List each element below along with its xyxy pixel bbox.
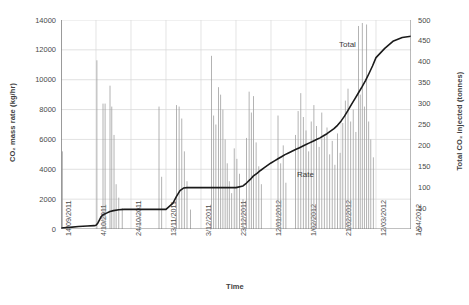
tick-label: 250	[418, 120, 458, 129]
tick-label: 14000	[16, 16, 56, 25]
rate-annotation: Rate	[297, 170, 314, 179]
rate-series	[62, 20, 374, 229]
y-axis-right-tick: 250	[418, 120, 460, 129]
y-axis-left-tick: 14000	[14, 16, 56, 25]
tick-label: 350	[418, 78, 458, 87]
y-axis-right-tick: 300	[418, 99, 460, 108]
tick-label: 300	[418, 99, 458, 108]
y-axis-right-tick: 0	[418, 225, 460, 234]
y-axis-left-tick: 6000	[14, 135, 56, 144]
y-axis-left-tick: 0	[14, 225, 56, 234]
chart-container: CO₂ mass rate (kg/hr) Total CO₂ injected…	[0, 0, 469, 305]
tick-label: 8000	[16, 105, 56, 114]
y-axis-right-tick: 150	[418, 162, 460, 171]
tick-label: 6000	[16, 135, 56, 144]
tick-label: 0	[418, 225, 458, 234]
y-axis-right-tick: 500	[418, 16, 460, 25]
y-axis-left-tick: 4000	[14, 165, 56, 174]
y-axis-right-tick: 100	[418, 183, 460, 192]
tick-label: 10000	[16, 75, 56, 84]
tick-label: 0	[16, 225, 56, 234]
tick-label: 2000	[16, 195, 56, 204]
tick-label: 150	[418, 162, 458, 171]
tick-label: 400	[418, 57, 458, 66]
y-axis-left-tick: 8000	[14, 105, 56, 114]
plot-area	[61, 20, 411, 229]
x-axis-title: Time	[180, 282, 290, 291]
total-annotation: Total	[339, 40, 356, 49]
y-axis-right-tick: 200	[418, 141, 460, 150]
y-axis-right-tick: 450	[418, 36, 460, 45]
tick-label: 50	[418, 204, 458, 213]
tick-label: 450	[418, 36, 458, 45]
tick-label: 4000	[16, 165, 56, 174]
y-axis-left-tick: 2000	[14, 195, 56, 204]
y-axis-right-tick: 400	[418, 57, 460, 66]
tick-label: 200	[418, 141, 458, 150]
tick-label: 100	[418, 183, 458, 192]
y-axis-right-tick: 50	[418, 204, 460, 213]
tick-label: 500	[418, 16, 458, 25]
chart-svg	[61, 20, 411, 229]
y-axis-left-tick: 12000	[14, 45, 56, 54]
y-axis-right-tick: 350	[418, 78, 460, 87]
y-axis-left-title: CO₂ mass rate (kg/hr)	[8, 75, 17, 171]
tick-label: 12000	[16, 45, 56, 54]
y-axis-left-tick: 10000	[14, 75, 56, 84]
x-axis-tick-label: 1/04/2012	[414, 204, 423, 236]
